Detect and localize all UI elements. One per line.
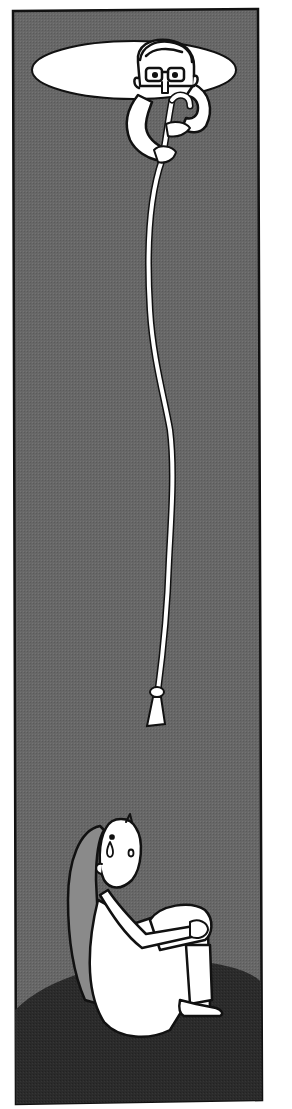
- comic-panel: [0, 0, 292, 1109]
- opening-oval: [32, 41, 236, 99]
- rope-knot: [150, 687, 164, 697]
- pit-illustration: [0, 0, 292, 1109]
